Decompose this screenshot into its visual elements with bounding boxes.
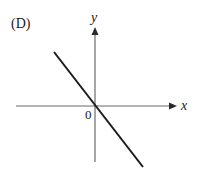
x-axis-arrow-icon [169, 103, 177, 110]
plotted-line [54, 52, 143, 167]
x-axis-label: x [180, 98, 188, 113]
origin-label: 0 [85, 107, 92, 122]
panel-label: (D) [11, 16, 31, 32]
graph-figure: (D) y x 0 [0, 0, 198, 179]
y-axis-label: y [89, 10, 98, 25]
y-axis-arrow-icon [92, 27, 99, 35]
